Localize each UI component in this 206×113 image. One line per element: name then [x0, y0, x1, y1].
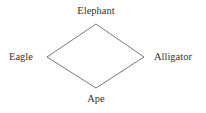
- node-label-alligator: Alligator: [154, 51, 192, 63]
- diagram-canvas: Elephant Eagle Alligator Ape: [0, 0, 206, 113]
- edge-elephant-eagle: [47, 24, 96, 57]
- edge-eagle-ape: [47, 57, 96, 88]
- edge-elephant-alligator: [96, 24, 144, 57]
- edge-alligator-ape: [96, 57, 144, 88]
- node-label-ape: Ape: [87, 93, 105, 105]
- node-label-eagle: Eagle: [9, 51, 33, 63]
- node-label-elephant: Elephant: [77, 5, 114, 17]
